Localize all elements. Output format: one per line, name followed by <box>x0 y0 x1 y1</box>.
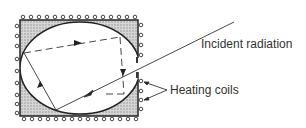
incident-radiation-label: Incident radiation <box>201 38 292 50</box>
elliptical-cavity <box>20 22 140 114</box>
heating-coil-pointers <box>144 82 167 100</box>
cavity-diagram <box>0 0 306 128</box>
heating-coils-label: Heating coils <box>170 84 239 96</box>
